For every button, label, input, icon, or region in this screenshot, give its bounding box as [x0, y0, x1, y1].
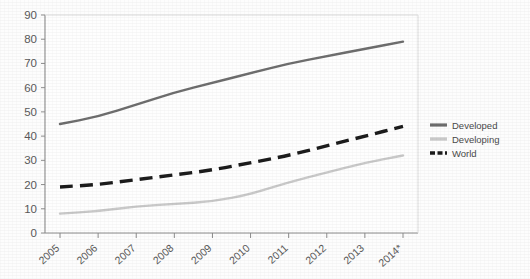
- plot-area-background: [45, 15, 418, 233]
- y-tick-label: 90: [24, 9, 37, 21]
- legend-label-developed: Developed: [452, 120, 497, 131]
- y-tick-label: 80: [24, 33, 37, 45]
- y-tick-label: 60: [24, 82, 37, 94]
- y-tick-label: 70: [24, 57, 37, 69]
- legend-label-developing: Developing: [452, 134, 500, 145]
- line-chart-figure: 0102030405060708090 20052006200720082009…: [0, 0, 530, 279]
- y-tick-label: 30: [24, 154, 37, 166]
- chart-canvas: 0102030405060708090 20052006200720082009…: [0, 0, 530, 279]
- y-tick-label: 10: [24, 203, 37, 215]
- y-tick-label: 0: [31, 227, 37, 239]
- y-tick-label: 20: [24, 179, 37, 191]
- y-tick-label: 50: [24, 106, 37, 118]
- y-tick-label: 40: [24, 130, 37, 142]
- legend-label-world: World: [452, 148, 477, 159]
